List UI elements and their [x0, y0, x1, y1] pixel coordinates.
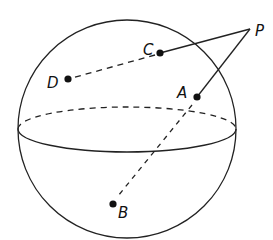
label-b: B — [118, 204, 128, 222]
point-a — [193, 93, 200, 100]
point-b — [109, 200, 116, 207]
equator-back-dashed — [18, 107, 236, 129]
line-p-a — [197, 29, 250, 97]
point-c — [156, 49, 163, 56]
point-d — [64, 75, 71, 82]
line-p-c — [160, 29, 250, 53]
equator-front — [18, 129, 236, 152]
label-d: D — [47, 74, 59, 92]
label-a: A — [176, 84, 187, 102]
sphere-diagram: P C D A B — [0, 0, 273, 240]
line-a-b-dashed — [118, 105, 192, 196]
label-c: C — [143, 41, 154, 59]
label-p: P — [255, 22, 265, 40]
